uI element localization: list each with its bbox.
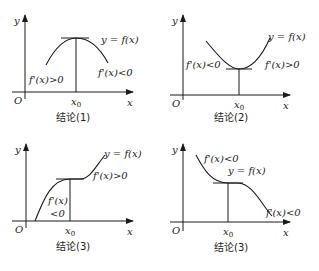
panel-4: y x O x0 y = f(x) f'(x)<0 f'(x)<0 结论(3): [170, 144, 301, 253]
x0-label: x0: [223, 226, 233, 239]
panel-caption: 结论(3): [56, 240, 90, 252]
function-label: y = f(x): [100, 34, 139, 45]
x0-label: x0: [234, 99, 244, 112]
left-derivative-label-line2: <0: [50, 208, 65, 219]
left-derivative-label: f'(x)<0: [203, 153, 239, 164]
x0-label: x0: [65, 225, 75, 238]
panel-2: y x O x0 y = f(x) f'(x)<0 f'(x)>0 结论(2): [170, 15, 306, 123]
derivative-extrema-diagram: y x O x0 y = f(x) f'(x)>0 f'(x)<0 结论(1) …: [0, 0, 319, 271]
left-derivative-label-line1: f'(x): [47, 195, 68, 206]
panel-caption: 结论(1): [56, 111, 90, 123]
x-axis-label: x: [127, 226, 133, 237]
curve: [46, 38, 108, 65]
left-derivative-label: f'(x)<0: [185, 59, 221, 70]
right-derivative-label: f'(x)>0: [264, 59, 300, 70]
origin-label: O: [15, 224, 23, 235]
panel-caption: 结论(2): [214, 111, 248, 123]
left-derivative-label: f'(x)>0: [28, 74, 64, 85]
x-axis-label: x: [283, 100, 289, 111]
function-label: y = f(x): [267, 31, 306, 42]
origin-label: O: [14, 95, 22, 106]
y-axis-label: y: [14, 144, 21, 155]
function-label: y = f(x): [227, 165, 266, 176]
right-derivative-label: f'(x)<0: [97, 67, 133, 78]
y-axis-label: y: [171, 15, 178, 26]
origin-label: O: [172, 225, 180, 236]
panel-1: y x O x0 y = f(x) f'(x)>0 f'(x)<0 结论(1): [12, 15, 139, 123]
right-derivative-label: f'(x)>0: [92, 170, 128, 181]
right-derivative-label: f'(x)<0: [265, 207, 301, 218]
function-label: y = f(x): [103, 148, 142, 159]
panel-3: y x O x0 y = f(x) f'(x) <0 f'(x)>0 结论(3): [12, 144, 142, 252]
y-axis-label: y: [171, 144, 178, 155]
origin-label: O: [172, 98, 180, 109]
x0-label: x0: [71, 96, 81, 109]
x-axis-label: x: [127, 97, 133, 108]
y-axis-label: y: [13, 15, 20, 26]
x-axis-label: x: [283, 227, 289, 238]
panel-caption: 结论(3): [214, 241, 248, 253]
